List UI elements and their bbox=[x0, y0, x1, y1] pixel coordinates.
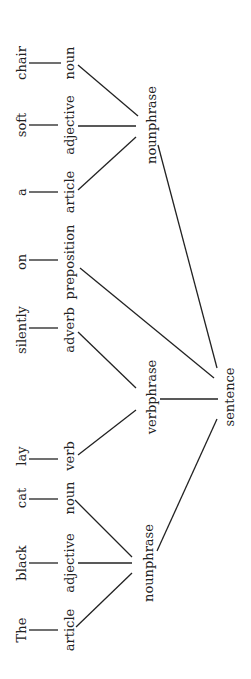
word-label: on bbox=[14, 253, 29, 270]
pos-label: article bbox=[62, 170, 77, 213]
tree-edge bbox=[76, 573, 132, 627]
tree-edge bbox=[157, 419, 217, 551]
pos-label: verb bbox=[62, 441, 77, 472]
word-label: black bbox=[14, 545, 29, 581]
pos-label: preposition bbox=[62, 224, 77, 299]
phrase-label: sentence bbox=[222, 367, 237, 426]
parse-tree-svg: chairsoftaonsilentlylaycatblackThenounad… bbox=[0, 0, 251, 679]
pos-label: article bbox=[62, 608, 77, 651]
pos-label: adjective bbox=[62, 95, 77, 155]
tree-edge bbox=[78, 410, 136, 455]
tree-edge bbox=[78, 137, 136, 190]
pos-label: noun bbox=[62, 481, 77, 515]
parse-tree-diagram: chairsoftaonsilentlylaycatblackThenounad… bbox=[0, 0, 251, 679]
word-label: silently bbox=[14, 305, 29, 353]
tree-edge bbox=[158, 145, 217, 368]
word-label: The bbox=[14, 617, 29, 642]
word-label: a bbox=[14, 188, 29, 196]
word-label: soft bbox=[14, 112, 29, 137]
pos-label: adjective bbox=[62, 533, 77, 593]
word-label: lay bbox=[14, 446, 29, 466]
word-label: cat bbox=[14, 487, 29, 508]
phrase-label: verbphrase bbox=[144, 359, 159, 435]
tree-edges bbox=[29, 63, 218, 630]
tree-labels: chairsoftaonsilentlylaycatblackThenounad… bbox=[14, 45, 237, 651]
tree-edge bbox=[78, 332, 136, 388]
word-label: chair bbox=[14, 45, 29, 80]
tree-edge bbox=[78, 65, 138, 116]
pos-label: noun bbox=[62, 46, 77, 80]
phrase-label: nounphrase bbox=[144, 86, 159, 164]
tree-edge bbox=[75, 500, 132, 557]
pos-label: adverb bbox=[62, 307, 77, 353]
phrase-label: nounphrase bbox=[141, 524, 156, 602]
